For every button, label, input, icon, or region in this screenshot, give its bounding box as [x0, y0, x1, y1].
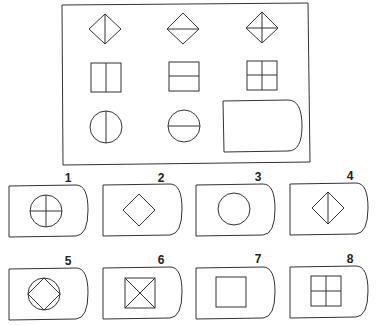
option-7[interactable]: [196, 267, 275, 319]
option-label-6: 6: [151, 253, 171, 267]
option-label-5: 5: [58, 254, 78, 268]
option-3[interactable]: [196, 184, 275, 236]
cell-1-3: [246, 12, 278, 43]
option-1[interactable]: [9, 185, 88, 237]
matrix-frame: [62, 3, 310, 165]
option-8[interactable]: [290, 266, 368, 318]
cell-1-1: [89, 14, 121, 44]
puzzle-figure: [0, 0, 376, 325]
option-label-7: 7: [248, 252, 268, 266]
option-label-8: 8: [340, 252, 360, 266]
option-label-2: 2: [151, 171, 171, 185]
option-label-4: 4: [340, 169, 360, 183]
option-5[interactable]: [9, 268, 88, 320]
option-label-3: 3: [248, 170, 268, 184]
cell-3-1: [90, 111, 122, 143]
option-4[interactable]: [290, 183, 368, 235]
cell-2-1: [91, 63, 121, 92]
option-6[interactable]: [103, 267, 182, 319]
option-label-1: 1: [58, 171, 78, 185]
cell-2-3: [247, 61, 277, 90]
cell-3-2: [168, 110, 200, 142]
option-2[interactable]: [103, 184, 182, 236]
missing-cell-tab: [223, 100, 302, 152]
cell-1-2: [167, 13, 199, 44]
cell-2-2: [169, 62, 199, 91]
